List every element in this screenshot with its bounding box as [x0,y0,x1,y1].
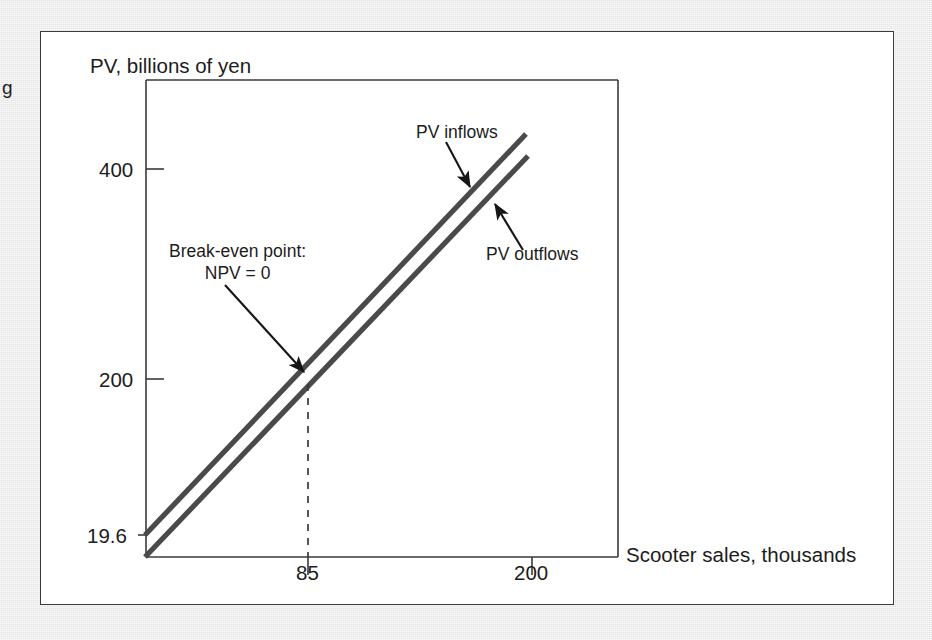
ytick-label-200: 200 [99,370,133,391]
ytick-label-19-6: 19.6 [87,526,127,547]
xtick-label-85: 85 [296,563,319,584]
margin-cropped-glyph: g [2,78,13,97]
breakeven-arrow [225,285,304,372]
series-line-pv-outflows [145,156,528,557]
figure-inner: PV, billions of yen Scooter sales, thous… [41,32,893,604]
series-line-pv-inflows [145,134,526,535]
pv-inflows-arrow [446,142,470,187]
annotation-pv-outflows: PV outflows [486,243,578,265]
annotation-break-even-line2: NPV = 0 [205,263,271,283]
y-axis-title: PV, billions of yen [90,56,251,77]
chart-canvas [41,32,895,606]
tick-marks [138,169,532,575]
annotation-pv-inflows: PV inflows [416,121,498,143]
annotation-break-even: Break-even point: NPV = 0 [169,240,306,285]
xtick-label-200: 200 [514,563,548,584]
annotation-break-even-line1: Break-even point: [169,241,306,261]
figure-panel: PV, billions of yen Scooter sales, thous… [40,31,894,605]
ytick-label-400: 400 [99,160,133,181]
x-axis-title: Scooter sales, thousands [626,545,856,566]
